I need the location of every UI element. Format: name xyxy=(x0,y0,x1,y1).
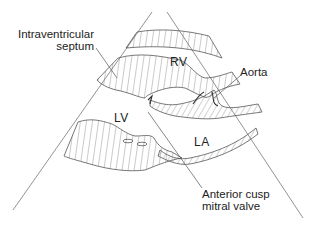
label-rv: RV xyxy=(170,56,187,68)
label-lv: LV xyxy=(114,112,129,124)
label-septum: Intraventricular septum xyxy=(16,28,94,52)
label-la: LA xyxy=(194,136,210,148)
interventricular-septum xyxy=(97,55,240,98)
label-mitral-line2: mitral valve xyxy=(202,200,270,212)
rv-anterior-wall xyxy=(126,30,222,58)
label-septum-line2: septum xyxy=(16,40,94,52)
label-mitral-line1: Anterior cusp xyxy=(202,188,270,200)
lv-posterior-wall xyxy=(64,120,182,171)
label-septum-line1: Intraventricular xyxy=(16,28,94,40)
label-aorta: Aorta xyxy=(240,66,268,78)
label-mitral: Anterior cusp mitral valve xyxy=(202,188,270,212)
